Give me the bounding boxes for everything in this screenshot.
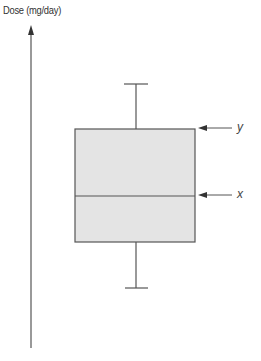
box-plot-diagram <box>0 0 261 361</box>
upper-whisker <box>124 84 148 129</box>
y-axis <box>28 25 34 348</box>
axis-arrowhead-icon <box>28 25 34 35</box>
annotation-label-x: x <box>237 187 243 201</box>
annotation-arrow-x <box>198 192 232 198</box>
arrow-left-icon <box>198 125 207 131</box>
interquartile-box <box>75 129 195 242</box>
lower-whisker <box>125 242 148 288</box>
annotation-label-y: y <box>237 120 243 134</box>
arrow-left-icon <box>198 192 207 198</box>
annotation-arrow-y <box>198 125 232 131</box>
